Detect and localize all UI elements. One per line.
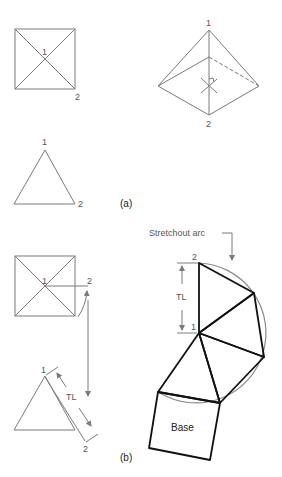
stretchout-arc-callout: Stretchout arc — [149, 228, 206, 238]
point-label-2: 2 — [206, 119, 211, 129]
point-label-1: 1 — [42, 276, 47, 286]
panel-b-caption: (b) — [120, 452, 132, 463]
triangle-outline — [14, 150, 75, 204]
point-label-1: 1 — [191, 322, 196, 332]
base-label: Base — [171, 422, 194, 433]
rotation-arrow — [78, 291, 87, 317]
pyramid-development-figure: 1 2 1 2 1 2 (a) — [0, 0, 282, 477]
dimension-arrow — [57, 373, 66, 387]
top-view-square-b: 1 2 — [15, 256, 92, 317]
pyramid-base-back-hidden — [209, 57, 259, 86]
panel-b: 1 2 TL 1 2 (b) Stretchout arc — [14, 228, 266, 463]
top-view-square-a: 1 2 — [15, 29, 80, 102]
panel-a: 1 2 1 2 1 2 (a) — [14, 18, 259, 209]
point-label-2: 2 — [75, 92, 80, 102]
point-label-1: 1 — [42, 47, 47, 57]
point-label-1: 1 — [42, 137, 47, 147]
true-length-line — [45, 377, 85, 441]
tl-label: TL — [176, 292, 187, 302]
triangle-outline — [14, 376, 75, 430]
extension-line — [46, 367, 58, 375]
development-pattern: Stretchout arc TL 2 1 Base — [149, 228, 266, 460]
point-label-2: 2 — [192, 252, 197, 262]
dimension-arrow — [79, 408, 91, 426]
front-view-triangle-a: 1 2 — [14, 137, 83, 209]
point-label-2: 2 — [83, 444, 88, 454]
panel-a-caption: (a) — [120, 198, 132, 209]
pattern-face-2 — [199, 293, 264, 357]
right-angle-mark — [209, 78, 214, 82]
point-label-2: 2 — [87, 276, 92, 286]
pyramid-base-back-left — [158, 57, 209, 86]
pattern-face-4 — [158, 333, 220, 403]
point-label-2: 2 — [78, 199, 83, 209]
callout-leader — [222, 233, 232, 260]
extension-line — [86, 434, 98, 442]
point-label-1: 1 — [41, 365, 46, 375]
pictorial-pyramid: 1 2 — [158, 18, 259, 129]
point-label-1: 1 — [206, 18, 211, 28]
tl-label: TL — [66, 392, 77, 402]
front-view-triangle-b: TL 1 2 — [14, 365, 98, 454]
